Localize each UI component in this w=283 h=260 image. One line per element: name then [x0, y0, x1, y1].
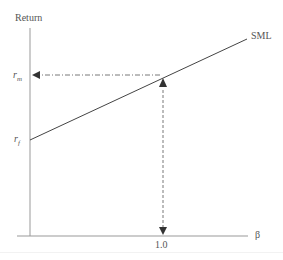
sml-label: SML: [251, 31, 272, 41]
sml-line: [30, 39, 247, 140]
sml-diagram: [0, 0, 283, 260]
rf-tick-label: rf: [14, 134, 20, 147]
rm-tick-label: rm: [13, 70, 22, 83]
divider: [0, 252, 283, 253]
x-axis-label: β: [255, 230, 260, 240]
y-axis-label: Return: [15, 13, 42, 23]
beta-tick-label: 1.0: [155, 240, 168, 250]
